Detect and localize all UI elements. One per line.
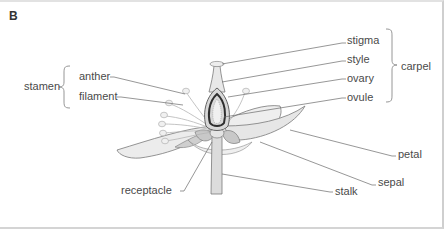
label-stamen: stamen bbox=[24, 80, 60, 92]
figure-frame: B bbox=[0, 0, 444, 229]
label-stigma: stigma bbox=[347, 34, 379, 46]
stigma bbox=[210, 61, 224, 66]
label-ovule: ovule bbox=[347, 91, 373, 103]
label-carpel: carpel bbox=[401, 60, 431, 72]
stalk bbox=[211, 136, 222, 194]
label-receptacle: receptacle bbox=[121, 184, 172, 196]
stamen-brace bbox=[59, 66, 70, 108]
label-anther: anther bbox=[79, 70, 110, 82]
label-sepal: sepal bbox=[378, 176, 404, 188]
label-ovary: ovary bbox=[347, 72, 374, 84]
label-style: style bbox=[347, 53, 370, 65]
label-filament: filament bbox=[79, 90, 118, 102]
label-stalk: stalk bbox=[335, 185, 358, 197]
label-petal: petal bbox=[398, 148, 422, 160]
carpel-brace bbox=[386, 29, 397, 102]
